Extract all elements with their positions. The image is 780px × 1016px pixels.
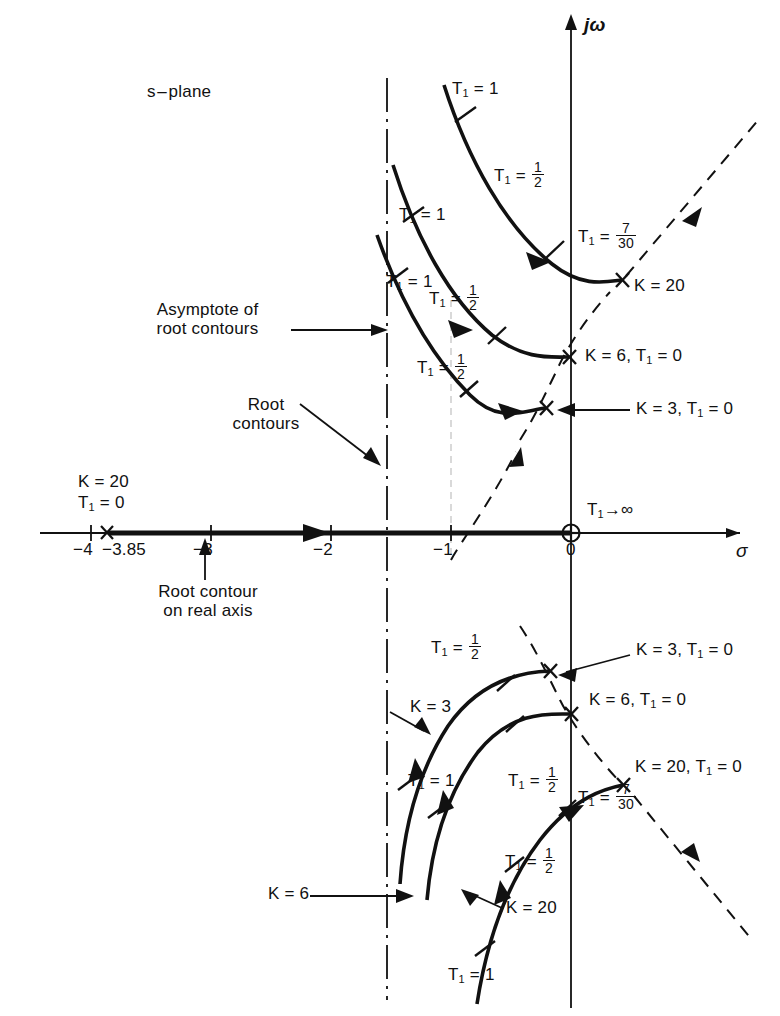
sigma-axis-label: σ xyxy=(736,540,748,561)
tick-label-minus-3-85: −3.85 xyxy=(102,540,146,559)
t1-label-k6-upper-one: T1 = 1 xyxy=(399,205,446,225)
tick-label-minus-3: −3 xyxy=(193,540,213,559)
contour-k3-upper-arrowhead xyxy=(498,403,523,420)
arrow-branch-k3 xyxy=(414,717,431,735)
t1-label-k20-upper-half: T1 = 12 xyxy=(494,160,545,190)
label-k3-upper: K = 3, T1 = 0 xyxy=(636,399,733,419)
label-branch-k6: K = 6 xyxy=(268,884,309,903)
t1-label-k20-upper-one: T1 = 1 xyxy=(452,79,499,99)
tick-label-minus-1: −1 xyxy=(433,540,453,559)
sigma-axis-arrowhead xyxy=(726,528,740,538)
contour-k3-upper xyxy=(377,235,546,414)
label-k20-lower: K = 20, T1 = 0 xyxy=(635,757,742,777)
arrow-asymptote xyxy=(371,324,388,336)
dashed-locus-lower-arrowhead xyxy=(681,843,700,862)
t1-label-k3-upper-one: T1 = 1 xyxy=(386,272,433,292)
dashed-locus-center-vertical xyxy=(451,452,516,560)
jomega-axis-arrowhead xyxy=(565,14,577,30)
t1-label-k6-lower-half: T1 = 12 xyxy=(508,765,559,795)
t1-label-k3-lower-one: T1 = 1 xyxy=(408,771,455,791)
dashed-locus-upper-asymptote xyxy=(626,118,760,276)
arrow-root-contours xyxy=(363,447,381,466)
root-contours-annotation: Root contours xyxy=(221,395,311,433)
label-branch-k3: K = 3 xyxy=(410,697,451,716)
label-real-pole-t1: T1 = 0 xyxy=(78,493,125,513)
t1-label-k20-lower-half: T1 = 12 xyxy=(505,846,556,876)
arrow-branch-k20 xyxy=(461,889,479,906)
t1-infinity-label: T1→∞ xyxy=(587,500,633,520)
dashed-locus-lower-asymptote xyxy=(634,796,752,940)
t1-label-k20-upper-seven-thirty: T1 = 730 xyxy=(578,221,637,251)
t1-label-k3-lower-half: T1 = 12 xyxy=(431,632,482,662)
t1-label-k3-upper-half: T1 = 12 xyxy=(417,352,468,382)
s-plane-label: ss–plane – plane xyxy=(147,82,211,101)
contour-k20-lower-ticks xyxy=(475,800,576,956)
arrow-branch-k6 xyxy=(396,889,414,903)
arrow-k3-upper xyxy=(557,403,575,417)
t1-label-k20-lower-seven-thirty: T1 = 730 xyxy=(578,782,637,812)
origin-label: 0 xyxy=(566,540,576,559)
dashed-locus-center-arrowhead xyxy=(509,447,524,467)
tick-label-minus-4: −4 xyxy=(73,540,93,559)
contour-k20-upper-arrowhead xyxy=(526,252,551,270)
contour-k6-upper-arrowhead xyxy=(448,320,473,338)
label-k20-upper: K = 20 xyxy=(634,276,685,295)
label-k6-lower: K = 6, T1 = 0 xyxy=(589,690,686,710)
label-k3-lower: K = 3, T1 = 0 xyxy=(636,640,733,660)
label-branch-k20: K = 20 xyxy=(506,898,557,917)
jomega-axis-label: jω xyxy=(584,14,606,35)
real-axis-contour-annotation: Root contour on real axis xyxy=(118,582,298,620)
dashed-locus-upper-arrowhead xyxy=(682,207,702,227)
t1-label-k20-lower-one: T1 = 1 xyxy=(448,965,495,985)
t1-label-k6-upper-half: T1 = 12 xyxy=(429,283,480,313)
label-real-pole-k20: K = 20 xyxy=(78,472,129,491)
arrow-k3-lower xyxy=(558,668,577,682)
asymptote-annotation: Asymptote of root contours xyxy=(120,300,295,338)
label-k6-upper: K = 6, T1 = 0 xyxy=(585,346,682,366)
tick-label-minus-2: −2 xyxy=(313,540,333,559)
